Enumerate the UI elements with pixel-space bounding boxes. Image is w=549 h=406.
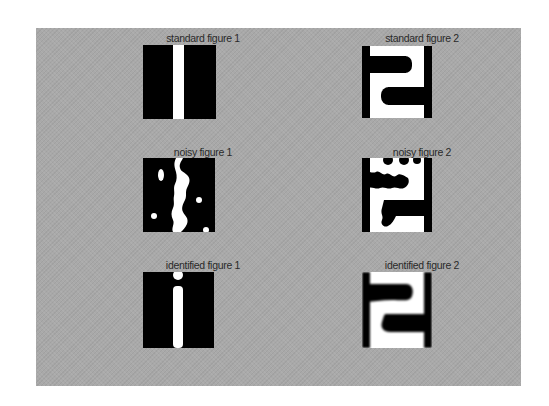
identified-figure-2-cell: identified figure 2	[362, 259, 482, 271]
noisy-figure-1-cell: noisy figure 1	[143, 146, 263, 158]
standard-figure-2-image	[362, 46, 432, 118]
noisy-figure-2-image	[362, 158, 432, 232]
identified-figure-2-image	[362, 272, 432, 348]
standard-figure-2-cell: standard figure 2	[362, 32, 482, 44]
noisy-figure-2-cell: noisy figure 2	[362, 146, 482, 158]
standard-figure-1-cell: standard figure 1	[143, 32, 263, 44]
standard-figure-2-title: standard figure 2	[362, 32, 482, 44]
figure-panel: standard figure 1 standard figure 2 nois…	[36, 28, 521, 386]
identified-figure-1-title: identified figure 1	[143, 259, 263, 271]
standard-figure-1-image	[143, 45, 216, 119]
noisy-figure-1-title: noisy figure 1	[143, 146, 263, 158]
identified-figure-1-image	[143, 272, 214, 348]
identified-figure-2-title: identified figure 2	[362, 259, 482, 271]
noisy-figure-1-image	[143, 158, 215, 232]
identified-figure-1-cell: identified figure 1	[143, 259, 263, 271]
noisy-figure-2-title: noisy figure 2	[362, 146, 482, 158]
standard-figure-1-title: standard figure 1	[143, 32, 263, 44]
